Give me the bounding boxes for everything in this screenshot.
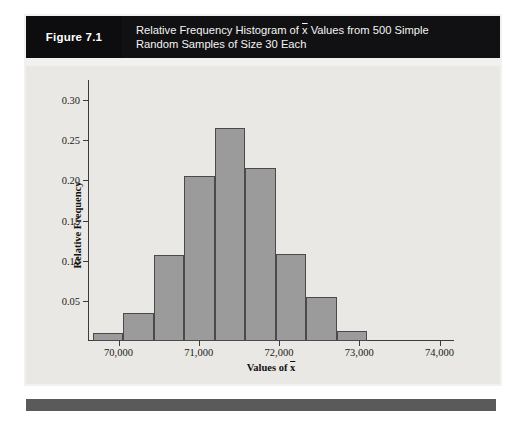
- y-tick-label: 0.30: [62, 95, 80, 106]
- y-tick-mark: [83, 261, 89, 262]
- x-axis-title-text: Values of: [247, 362, 290, 373]
- figure-caption: Relative Frequency Histogram of x Values…: [136, 23, 429, 51]
- x-tick-label: 71,000: [184, 347, 213, 358]
- y-tick-label: 0.15: [62, 215, 80, 226]
- y-tick-mark: [83, 140, 89, 141]
- x-tick-label: 70,000: [104, 347, 133, 358]
- y-tick-label: 0.25: [62, 135, 80, 146]
- histogram-bar: [215, 128, 246, 341]
- x-tick-mark: [359, 340, 360, 346]
- chart-area: Relative Frequency 0.050.100.150.200.250…: [26, 66, 500, 384]
- plot-area: 0.050.100.150.200.250.30 70,00071,00072,…: [88, 80, 454, 341]
- x-tick-label: 74,000: [425, 347, 454, 358]
- x-axis-xbar-symbol: x: [290, 362, 295, 373]
- histogram-bar: [306, 297, 337, 341]
- x-tick-mark: [119, 340, 120, 346]
- y-tick-mark: [83, 180, 89, 181]
- y-tick-mark: [83, 221, 89, 222]
- histogram-bar: [245, 168, 276, 341]
- caption-line-2: Random Samples of Size 30 Each: [136, 38, 306, 50]
- y-tick-mark: [83, 100, 89, 101]
- figure-number-box: Figure 7.1: [26, 16, 122, 58]
- histogram-bar: [184, 176, 215, 341]
- caption-text-part2: Values from 500 Simple: [308, 24, 429, 36]
- x-tick-label: 73,000: [345, 347, 374, 358]
- histogram-bar: [276, 254, 307, 341]
- figure-footer-rule: [26, 399, 496, 411]
- x-tick-mark: [440, 340, 441, 346]
- figure-number-label: Figure 7.1: [46, 31, 102, 43]
- x-tick-mark: [279, 340, 280, 346]
- figure-caption-box: Relative Frequency Histogram of x Values…: [122, 16, 500, 58]
- figure-header: Figure 7.1 Relative Frequency Histogram …: [26, 16, 500, 58]
- y-tick-mark: [83, 301, 89, 302]
- x-tick-label: 72,000: [265, 347, 294, 358]
- y-tick-label: 0.05: [62, 295, 80, 306]
- y-tick-label: 0.10: [62, 255, 80, 266]
- histogram-bar: [154, 255, 185, 341]
- caption-text-part1: Relative Frequency Histogram of: [136, 24, 302, 36]
- histogram-bar: [337, 331, 368, 341]
- figure-page: Figure 7.1 Relative Frequency Histogram …: [0, 0, 526, 430]
- y-tick-label: 0.20: [62, 175, 80, 186]
- x-tick-mark: [199, 340, 200, 346]
- histogram-bar: [123, 313, 154, 341]
- x-axis-title: Values of x: [88, 362, 454, 373]
- y-axis-line: [88, 80, 89, 341]
